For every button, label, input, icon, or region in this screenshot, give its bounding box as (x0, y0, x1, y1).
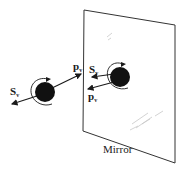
diagram-canvas (0, 0, 189, 174)
image-spin-label: Sv (89, 64, 98, 76)
image-momentum-label: pv (88, 91, 97, 103)
particle-ball (35, 82, 55, 102)
particle (12, 74, 81, 105)
momentum-arrow (50, 74, 81, 89)
image-particle-ball (110, 67, 130, 87)
mirror-caption: Mirror (103, 143, 132, 155)
particle-momentum-label: pv (73, 61, 82, 73)
particle-spin-label: Sv (10, 86, 19, 98)
